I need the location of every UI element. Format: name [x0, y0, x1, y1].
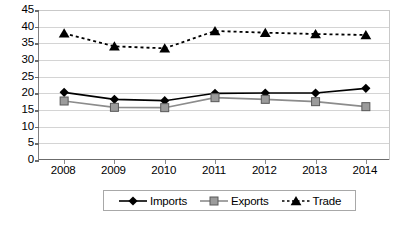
data-point-imports-2008 [60, 88, 69, 97]
data-point-exports-2014 [362, 103, 370, 111]
legend-marker-triangle-icon [281, 195, 311, 207]
data-point-trade-2011 [210, 26, 221, 35]
x-tick-label-2014: 2014 [337, 164, 393, 176]
legend-label-exports: Exports [231, 195, 269, 207]
x-tick-label-2013: 2013 [287, 164, 343, 176]
series-exports [60, 94, 370, 112]
y-tick-label-15: 15 [4, 104, 34, 116]
y-tick-label-25: 25 [4, 71, 34, 83]
y-tick-label-45: 45 [4, 4, 34, 16]
data-point-exports-2013 [312, 98, 320, 106]
y-tick-label-40: 40 [4, 21, 34, 33]
data-point-trade-2012 [260, 28, 271, 37]
data-point-imports-2013 [311, 88, 320, 97]
data-point-exports-2011 [211, 94, 219, 102]
x-tick-label-2010: 2010 [136, 164, 192, 176]
data-point-exports-2008 [60, 97, 68, 105]
y-tick-label-35: 35 [4, 37, 34, 49]
y-tick-label-5: 5 [4, 137, 34, 149]
legend-item-trade[interactable]: Trade [281, 195, 342, 207]
x-tick-label-2011: 2011 [186, 164, 242, 176]
x-tick-label-2012: 2012 [236, 164, 292, 176]
y-tick-label-10: 10 [4, 121, 34, 133]
data-point-trade-2008 [59, 28, 70, 37]
data-point-exports-2012 [261, 95, 269, 103]
y-tick-label-0: 0 [4, 154, 34, 166]
plot-area [38, 10, 390, 160]
data-point-exports-2009 [110, 103, 118, 111]
series-layer [39, 10, 391, 160]
data-point-imports-2014 [361, 84, 370, 93]
x-tick-label-2009: 2009 [85, 164, 141, 176]
y-tick-label-20: 20 [4, 87, 34, 99]
chart-legend[interactable]: ImportsExportsTrade [103, 190, 356, 211]
legend-item-exports[interactable]: Exports [199, 195, 269, 207]
legend-marker-diamond-icon [118, 195, 148, 207]
line-chart: 051015202530354045 200820092010201120122… [0, 0, 400, 225]
x-tick-label-2008: 2008 [35, 164, 91, 176]
series-trade [59, 26, 372, 53]
legend-marker-square-icon [199, 195, 229, 207]
legend-item-imports[interactable]: Imports [118, 195, 187, 207]
y-tick-label-30: 30 [4, 54, 34, 66]
y-tick-mark-0 [35, 160, 39, 162]
legend-label-trade: Trade [313, 195, 342, 207]
data-point-exports-2010 [161, 104, 169, 112]
figure-caption [2, 216, 398, 225]
data-point-imports-2009 [110, 95, 119, 104]
legend-label-imports: Imports [150, 195, 187, 207]
